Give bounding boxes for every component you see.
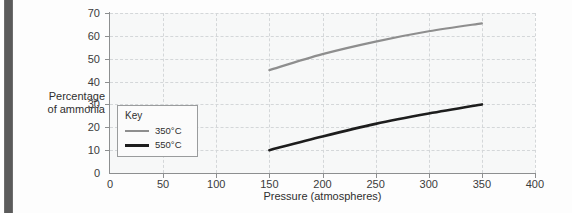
legend-title: Key — [125, 110, 142, 121]
legend-label-550c: 550°C — [155, 139, 182, 150]
legend-item-350c: 350°C — [125, 125, 195, 137]
legend-swatch-550c — [125, 144, 149, 147]
legend-label-350c: 350°C — [155, 125, 182, 136]
legend-swatch-350c — [125, 130, 149, 132]
legend-item-550c: 550°C — [125, 139, 195, 151]
series-line-350c — [269, 23, 482, 70]
series-layer — [0, 0, 572, 213]
legend-key: Key 350°C 550°C — [117, 105, 198, 157]
series-line-550c — [269, 104, 482, 150]
chart-page: 70 60 50 40 30 20 10 0 0 50 100 150 200 … — [0, 0, 572, 213]
